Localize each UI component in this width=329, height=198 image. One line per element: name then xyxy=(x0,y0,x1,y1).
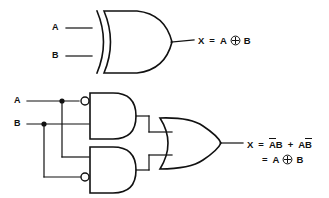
bottom-and-input-bubble xyxy=(81,173,89,181)
and-or-input-label-a: A xyxy=(14,96,21,105)
xor-eq-operand-left: A xyxy=(220,35,227,46)
eq2-operand-left: A xyxy=(273,154,280,165)
xor-eq-operand-right: B xyxy=(244,35,251,46)
eq1-term2-negated-b: B xyxy=(305,138,312,150)
eq2-equals: = xyxy=(262,154,268,165)
xor-gate-circuit xyxy=(66,11,194,73)
top-and-input-bubble xyxy=(81,97,89,105)
xor-output-equation: X=A B xyxy=(198,35,251,46)
xor-input-label-a: A xyxy=(52,23,59,32)
xor-circle-plus-icon xyxy=(230,35,241,46)
logic-diagram-page: A B X=A B A B X=AB+AB =A B xyxy=(0,0,329,198)
and-or-output-equation-line1: X=AB+AB xyxy=(247,137,312,150)
and-or-equivalent-circuit xyxy=(27,93,243,193)
xor-gate-body xyxy=(104,11,172,73)
xor-circle-plus-icon xyxy=(282,154,293,165)
or-gate-body xyxy=(160,118,221,169)
eq1-plus: + xyxy=(288,139,294,150)
junction-dot-b xyxy=(41,121,46,126)
xor-back-arc-outer xyxy=(97,11,104,73)
eq1-term1-b: B xyxy=(276,139,283,150)
xor-eq-equals: = xyxy=(209,35,215,46)
eq2-operand-right: B xyxy=(296,154,303,165)
and-or-output-equation-line2: =A B xyxy=(262,154,303,165)
junction-dot-a xyxy=(59,98,64,103)
and-gate-bottom-body xyxy=(90,147,136,193)
and-or-input-label-b: B xyxy=(14,119,21,128)
eq1-term2-a: A xyxy=(298,139,305,150)
xor-input-label-b: B xyxy=(52,51,59,60)
and-gate-top-body xyxy=(90,93,136,139)
eq1-output: X xyxy=(247,139,253,150)
xor-output-wire xyxy=(171,40,194,42)
circuit-diagram-canvas xyxy=(0,0,329,198)
eq1-term1-negated-a: A xyxy=(269,138,276,150)
xor-eq-output: X xyxy=(198,35,204,46)
eq1-equals: = xyxy=(258,139,264,150)
